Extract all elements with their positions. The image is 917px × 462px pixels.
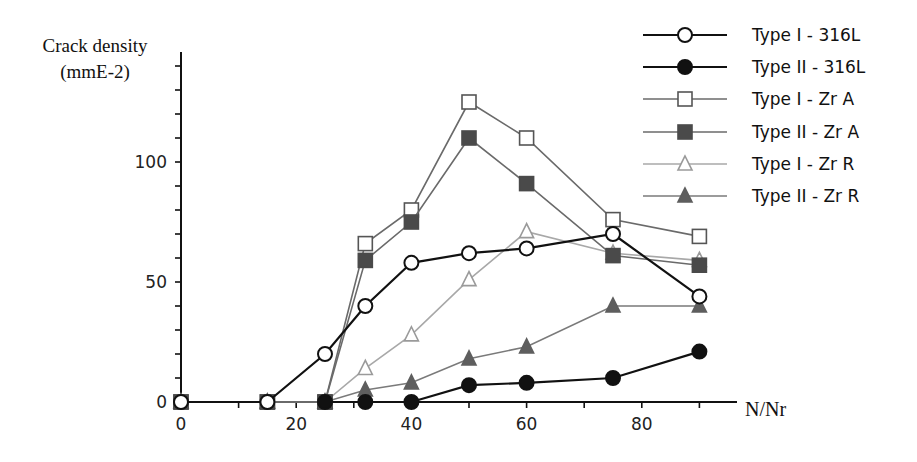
crack-density-chart: Crack density (mmE-2) N/Nr 0501000204060… — [0, 0, 917, 462]
y-tick-label: 100 — [135, 152, 167, 172]
x-tick-label: 0 — [176, 414, 187, 434]
x-tick-label: 60 — [516, 414, 538, 434]
open-square-marker-icon — [358, 237, 372, 251]
open-circle-marker-icon — [520, 241, 534, 255]
legend: Type I - 316LType II - 316LType I - Zr A… — [643, 25, 866, 206]
legend-item: Type II - Zr R — [643, 186, 859, 206]
x-tick-label: 20 — [285, 414, 307, 434]
legend-label: Type I - Zr A — [751, 89, 854, 109]
open-circle-marker-icon — [606, 227, 620, 241]
filled-circle-marker-icon — [520, 376, 534, 390]
filled-square-marker-icon — [404, 215, 418, 229]
series-line — [181, 234, 699, 402]
open-circle-marker-icon — [318, 347, 332, 361]
filled-triangle-marker-icon — [404, 375, 418, 389]
open-square-marker-icon — [692, 229, 706, 243]
series-type-i-zr-r — [174, 224, 706, 408]
open-triangle-marker-icon — [462, 272, 476, 286]
open-circle-marker-icon — [404, 256, 418, 270]
filled-triangle-marker-icon — [678, 188, 692, 202]
plot-area — [174, 95, 706, 409]
x-tick-label: 80 — [631, 414, 653, 434]
legend-item: Type II - Zr A — [643, 122, 859, 142]
filled-circle-marker-icon — [318, 395, 332, 409]
filled-square-marker-icon — [520, 177, 534, 191]
filled-circle-marker-icon — [678, 60, 692, 74]
open-square-marker-icon — [462, 95, 476, 109]
x-axis-label: N/Nr — [745, 398, 786, 420]
filled-square-marker-icon — [678, 125, 692, 139]
filled-circle-marker-icon — [606, 371, 620, 385]
legend-label: Type I - Zr R — [751, 154, 854, 174]
series-line — [181, 102, 699, 402]
open-circle-marker-icon — [174, 395, 188, 409]
series-type-ii-zr-r — [174, 298, 706, 408]
legend-item: Type I - Zr A — [643, 89, 854, 109]
filled-triangle-marker-icon — [520, 339, 534, 353]
legend-item: Type II - 316L — [643, 57, 866, 77]
filled-circle-marker-icon — [692, 345, 706, 359]
series-type-ii-316l — [318, 345, 706, 409]
open-triangle-marker-icon — [678, 156, 692, 170]
series-line — [181, 138, 699, 402]
open-circle-marker-icon — [462, 246, 476, 260]
filled-triangle-marker-icon — [606, 298, 620, 312]
legend-label: Type I - 316L — [751, 25, 861, 45]
open-circle-marker-icon — [692, 289, 706, 303]
legend-label: Type II - Zr A — [751, 122, 859, 142]
y-tick-label: 0 — [156, 392, 167, 412]
open-square-marker-icon — [520, 131, 534, 145]
open-square-marker-icon — [606, 213, 620, 227]
filled-square-marker-icon — [358, 253, 372, 267]
legend-item: Type I - Zr R — [643, 154, 854, 174]
axes: 050100020406080 — [135, 52, 737, 434]
legend-label: Type II - 316L — [751, 57, 866, 77]
filled-circle-marker-icon — [404, 395, 418, 409]
y-axis-label: Crack density — [42, 35, 148, 56]
filled-square-marker-icon — [462, 131, 476, 145]
filled-circle-marker-icon — [358, 395, 372, 409]
filled-square-marker-icon — [692, 258, 706, 272]
series-line — [325, 352, 699, 402]
x-tick-label: 40 — [401, 414, 423, 434]
filled-circle-marker-icon — [462, 378, 476, 392]
filled-square-marker-icon — [606, 249, 620, 263]
open-triangle-marker-icon — [358, 360, 372, 374]
open-square-marker-icon — [678, 92, 692, 106]
open-triangle-marker-icon — [404, 327, 418, 341]
legend-item: Type I - 316L — [643, 25, 861, 45]
legend-label: Type II - Zr R — [751, 186, 859, 206]
series-type-i-zr-a — [174, 95, 706, 409]
open-circle-marker-icon — [678, 28, 692, 42]
open-circle-marker-icon — [260, 395, 274, 409]
y-axis-unit: (mmE-2) — [60, 61, 130, 83]
y-tick-label: 50 — [145, 272, 167, 292]
series-type-ii-zr-a — [174, 131, 706, 409]
open-triangle-marker-icon — [520, 224, 534, 238]
series-line — [181, 306, 699, 402]
open-circle-marker-icon — [358, 299, 372, 313]
